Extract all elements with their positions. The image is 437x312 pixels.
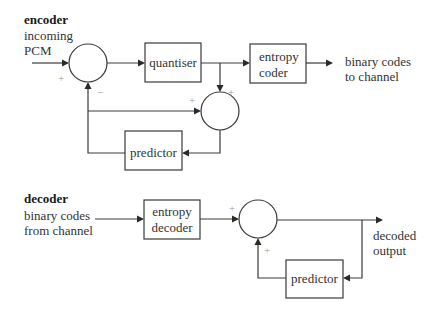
decoder-input-label-1: binary codes [24, 208, 90, 223]
arrowhead-icon [194, 108, 201, 115]
arrowhead-icon [137, 216, 144, 223]
quantiser-label: quantiser [149, 55, 197, 70]
arrowhead-icon [182, 150, 189, 157]
encoder-section: encoder incoming PCM + − quantiser entro… [24, 12, 411, 170]
decoder-adder-circle [239, 200, 277, 238]
encoder-predictor-label: predictor [130, 145, 178, 160]
arrowhead-icon [217, 85, 224, 92]
diagram-svg: encoder incoming PCM + − quantiser entro… [0, 0, 437, 312]
encoder-sum2-left-sign: + [189, 94, 195, 106]
arrowhead-icon [376, 217, 383, 224]
entropy-coder-label-2: coder [259, 65, 289, 80]
entropy-decoder-label-1: entropy [152, 204, 192, 219]
encoder-title: encoder [24, 12, 68, 27]
encoder-output-label-2: to channel [345, 69, 399, 84]
adder-to-predictor-line [187, 130, 220, 153]
decoder-section: decoder binary codes from channel entrop… [24, 191, 417, 298]
encoder-sum1-input-sign: + [58, 72, 64, 84]
decoder-sum-left-sign: + [229, 202, 235, 214]
encoder-subtractor-circle [69, 44, 107, 82]
arrowhead-icon [326, 60, 333, 67]
decoder-sum-bottom-sign: + [264, 244, 270, 256]
arrowhead-icon [85, 82, 92, 89]
entropy-coder-label-1: entropy [259, 49, 299, 64]
predictor-to-adder-line [258, 243, 286, 278]
decoder-title: decoder [24, 191, 68, 206]
encoder-sum1-feedback-sign: − [97, 86, 103, 98]
decoder-output-label-1: decoded [373, 228, 417, 243]
decoder-input-label-2: from channel [24, 223, 93, 238]
predictor-to-subtractor-line [88, 87, 125, 153]
arrowhead-icon [138, 60, 145, 67]
decoder-output-label-2: output [373, 243, 407, 258]
arrowhead-icon [255, 238, 262, 245]
encoder-output-label-1: binary codes [345, 54, 411, 69]
encoder-sum2-top-sign: + [228, 86, 234, 98]
encoder-input-label-2: PCM [24, 43, 52, 58]
arrowhead-icon [232, 216, 239, 223]
arrowhead-icon [243, 60, 250, 67]
entropy-decoder-label-2: decoder [151, 220, 193, 235]
output-to-predictor-line [348, 220, 362, 278]
decoder-predictor-label: predictor [291, 271, 339, 286]
encoder-input-label-1: incoming [24, 28, 74, 43]
arrowhead-icon [343, 275, 350, 282]
dpcm-diagram: encoder incoming PCM + − quantiser entro… [0, 0, 437, 312]
arrowhead-icon [62, 60, 69, 67]
